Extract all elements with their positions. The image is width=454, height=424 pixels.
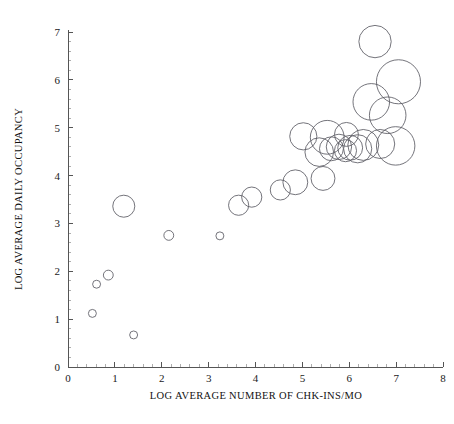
x-axis-tick-labels: 012345678 [65, 372, 446, 384]
x-tick-label: 5 [300, 372, 306, 384]
data-bubble [338, 135, 363, 160]
x-tick-label: 7 [393, 372, 399, 384]
data-bubble [359, 25, 391, 57]
data-bubble [113, 195, 135, 217]
major-tick-marks [68, 32, 443, 367]
x-tick-label: 6 [347, 372, 353, 384]
y-axis-tick-labels: 01234567 [55, 26, 61, 373]
bubble-chart-figure: 012345678 01234567 LOG AVERAGE NUMBER OF… [0, 0, 454, 424]
chart-canvas: 012345678 01234567 LOG AVERAGE NUMBER OF… [0, 0, 454, 424]
data-bubble [130, 331, 138, 339]
y-tick-label: 2 [55, 265, 61, 277]
minor-tick-marks [68, 42, 434, 367]
data-bubble [164, 230, 174, 240]
x-tick-label: 0 [65, 372, 71, 384]
y-tick-label: 5 [55, 122, 61, 134]
data-bubbles-layer [88, 25, 420, 339]
data-bubble [93, 280, 101, 288]
y-tick-label: 6 [55, 74, 61, 86]
x-tick-label: 4 [253, 372, 259, 384]
y-tick-label: 7 [55, 26, 61, 38]
x-tick-label: 8 [440, 372, 446, 384]
data-bubble [216, 232, 224, 240]
y-tick-label: 0 [55, 361, 61, 373]
y-tick-label: 4 [55, 170, 61, 182]
data-bubble [353, 84, 390, 121]
data-bubble [103, 270, 113, 280]
data-bubble [270, 180, 290, 200]
x-tick-label: 3 [206, 372, 212, 384]
y-tick-label: 3 [55, 217, 61, 229]
y-axis-title: LOG AVERAGE DAILY OCCUPANCY [13, 108, 24, 290]
data-bubble [88, 309, 96, 317]
x-tick-label: 1 [112, 372, 118, 384]
data-bubble [376, 127, 414, 165]
x-tick-label: 2 [159, 372, 165, 384]
y-tick-label: 1 [55, 313, 61, 325]
data-bubble [311, 166, 335, 190]
x-axis-title: LOG AVERAGE NUMBER OF CHK-INS/MO [150, 390, 362, 401]
